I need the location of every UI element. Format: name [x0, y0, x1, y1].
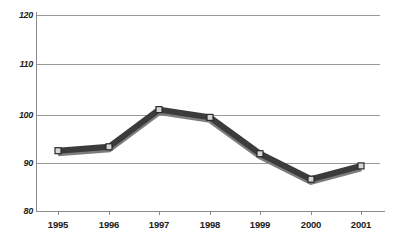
y-tick-label-100: 100 — [19, 111, 33, 120]
line-chart: 120 110 100 90 80 — [0, 0, 407, 246]
x-tick-1996 — [109, 211, 110, 215]
x-tick-label-2000: 2000 — [301, 219, 321, 230]
y-axis-labels: 120 110 100 90 80 — [0, 0, 33, 246]
gridline-90 — [37, 163, 380, 164]
x-tick-1999 — [260, 211, 261, 215]
y-tick-label-120: 120 — [19, 11, 33, 20]
x-tick-label-2001: 2001 — [351, 219, 371, 230]
x-tick-label-1995: 1995 — [48, 219, 68, 230]
x-tick-1997 — [159, 211, 160, 215]
x-tick-1995 — [58, 211, 59, 215]
gridline-100 — [37, 115, 380, 116]
gridline-120 — [37, 15, 380, 16]
y-tick-label-80: 80 — [24, 207, 33, 216]
y-tick-label-90: 90 — [24, 159, 33, 168]
x-tick-label-1998: 1998 — [200, 219, 220, 230]
x-tick-label-1996: 1996 — [99, 219, 119, 230]
gridline-110 — [37, 64, 380, 65]
x-tick-label-1999: 1999 — [250, 219, 270, 230]
y-tick-label-110: 110 — [20, 60, 33, 69]
x-tick-2001 — [361, 211, 362, 215]
plot-area — [37, 13, 380, 211]
x-tick-2000 — [311, 211, 312, 215]
x-tick-1998 — [210, 211, 211, 215]
x-tick-label-1997: 1997 — [149, 219, 169, 230]
